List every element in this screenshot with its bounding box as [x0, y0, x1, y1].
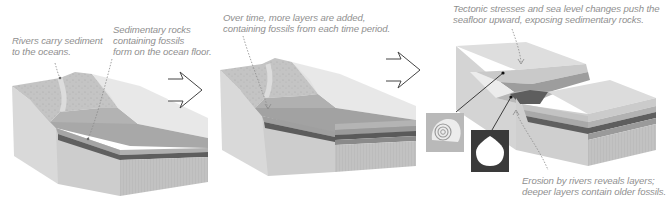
caption-erosion: Erosion by rivers reveals layers; deeper… — [522, 175, 666, 197]
arrow-2-icon — [386, 52, 420, 88]
caption-tectonic: Tectonic stresses and sea level changes … — [453, 3, 660, 25]
clam-fossil-icon — [471, 130, 509, 172]
ammonite-fossil-icon — [426, 113, 464, 152]
caption-rivers: Rivers carry sediment to the oceans. — [12, 35, 103, 57]
caption-over-time: Over time, more layers are added, contai… — [223, 12, 390, 34]
caption-sedimentary-rocks: Sedimentary rocks containing fossils for… — [113, 24, 212, 57]
